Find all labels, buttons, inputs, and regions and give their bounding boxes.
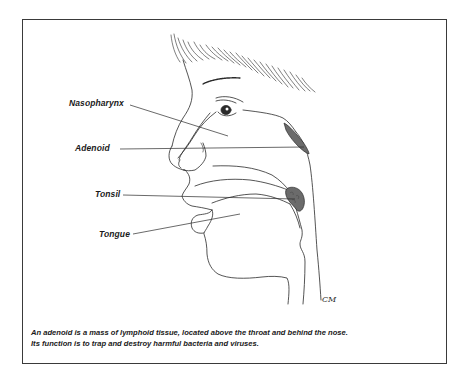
nasopharynx-leader bbox=[130, 105, 228, 136]
tonsil-leader bbox=[123, 195, 295, 199]
tongue-leader bbox=[133, 214, 240, 234]
caption-line-1: An adenoid is a mass of lymphoid tissue,… bbox=[31, 327, 441, 338]
label-nasopharynx: Nasopharynx bbox=[69, 98, 124, 108]
label-adenoid: Adenoid bbox=[75, 143, 110, 153]
caption-line-2: Its function is to trap and destroy harm… bbox=[31, 338, 441, 349]
head-profile-illustration: CM bbox=[0, 0, 467, 373]
hair-strands bbox=[171, 34, 315, 92]
figure-caption: An adenoid is a mass of lymphoid tissue,… bbox=[31, 327, 441, 349]
adenoid-leader bbox=[120, 147, 304, 149]
label-tonsil: Tonsil bbox=[95, 189, 120, 199]
artist-signature: CM bbox=[322, 295, 337, 304]
adenoid-shape bbox=[284, 123, 309, 154]
label-tongue: Tongue bbox=[99, 229, 130, 239]
